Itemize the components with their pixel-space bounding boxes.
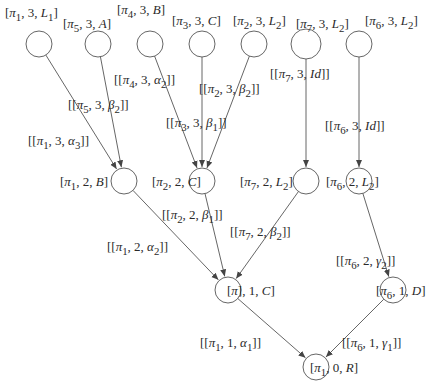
diagram-canvas <box>0 0 441 386</box>
edge-n8-n12 <box>133 190 218 279</box>
edge-n5-n9 <box>207 56 249 168</box>
node-label: [π1, 2, B] <box>60 175 108 193</box>
edge-label: [[π1, 3, α3]] <box>28 134 89 152</box>
node-label: [π7, 2, L2] <box>240 175 293 193</box>
node-label: [π5, 3, A] <box>63 17 111 35</box>
edge-label: [[π2, 3, β2]] <box>199 82 260 100</box>
edge-label: [[π7, 3, Id]] <box>270 67 330 85</box>
node-circle-n4 <box>189 31 215 57</box>
node-label: [π7, 3, L2] <box>296 17 349 35</box>
edge-label: [[π1, 1, α1]] <box>200 336 261 354</box>
node-label: [π1, 0, R] <box>310 361 358 379</box>
node-label: [π], 1, C] <box>227 284 275 298</box>
edge-label: [[π1, 2, α2]] <box>107 240 168 258</box>
node-label: [π1, 3, L1] <box>5 6 58 24</box>
edge-label: [[π3, 3, β1]] <box>166 116 227 134</box>
node-circle-n8 <box>111 168 137 194</box>
node-label: [π6, 2, L2] <box>326 175 379 193</box>
node-circle-n10 <box>293 168 319 194</box>
node-label: [π2, 3, L2] <box>233 14 286 32</box>
edge-label: [[π7, 2, β2]] <box>230 225 291 243</box>
edge-label: [[π6, 1, γ1]] <box>342 336 401 354</box>
node-label: [π6, 1, D] <box>376 284 426 302</box>
node-circle-n3 <box>137 31 163 57</box>
edge-label: [[π6, 3, Id]] <box>325 119 385 137</box>
node-circle-n7 <box>346 31 372 57</box>
node-circle-n1 <box>26 31 52 57</box>
edge-label: [[π2, 2, β1]] <box>162 208 223 226</box>
node-circle-n2 <box>85 31 111 57</box>
edge-label: [[π6, 2, γ2]] <box>336 254 395 272</box>
node-label: [π4, 3, B] <box>117 3 165 21</box>
node-label: [π3, 3, C] <box>172 14 221 32</box>
node-circle-n5 <box>241 31 267 57</box>
edge-label: [[π4, 3, α2]] <box>114 73 175 91</box>
node-label: [π6, 3, L2] <box>365 14 418 32</box>
node-label: [π2, 2, C] <box>152 175 201 193</box>
edge-label: [[π5, 3, β2]] <box>68 98 129 116</box>
